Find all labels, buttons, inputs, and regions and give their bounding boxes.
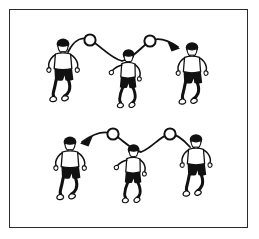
top-ball-2-icon bbox=[144, 35, 155, 46]
figure-root: Soccer heading drill — two rows of three… bbox=[0, 0, 259, 239]
bottom-middle-player bbox=[114, 144, 146, 203]
top-ball-1-icon bbox=[84, 34, 95, 45]
bottom-right-player bbox=[180, 134, 212, 196]
bottom-ball-1-icon bbox=[107, 128, 118, 139]
drill-illustration-canvas bbox=[0, 0, 259, 239]
bottom-ball-2-icon bbox=[164, 128, 175, 139]
bottom-left-player bbox=[54, 137, 87, 200]
top-row-group bbox=[47, 34, 208, 107]
top-left-player bbox=[47, 39, 80, 102]
bottom-row-group bbox=[54, 128, 212, 202]
top-right-player bbox=[176, 42, 208, 104]
